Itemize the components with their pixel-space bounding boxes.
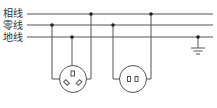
socket-neutral-pin-icon xyxy=(64,80,70,86)
socket-pin-right-icon xyxy=(135,77,138,82)
junction-dot xyxy=(70,35,74,39)
socket2-neutral-lead xyxy=(113,25,120,79)
socket-earth-pin-icon xyxy=(71,71,75,76)
socket-pin-left-icon xyxy=(128,77,131,82)
two-pin-socket xyxy=(120,66,147,93)
junction-dot xyxy=(196,35,200,39)
socket1-neutral-lead xyxy=(52,25,60,79)
junction-dot xyxy=(50,23,54,27)
socket1-live-lead xyxy=(86,14,91,79)
wiring-diagram xyxy=(0,0,217,108)
junction-dot xyxy=(111,23,115,27)
three-pin-socket xyxy=(60,66,87,93)
socket-live-pin-icon xyxy=(76,80,82,86)
junction-dot xyxy=(89,12,93,16)
socket2-live-lead xyxy=(146,14,151,79)
junction-dot xyxy=(149,12,153,16)
